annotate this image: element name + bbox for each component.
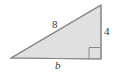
base-label: b <box>55 60 61 71</box>
hypotenuse-label: 8 <box>52 19 58 30</box>
vertical-leg-label: 4 <box>104 26 110 37</box>
geometry-figure: 8 4 b <box>0 0 115 76</box>
